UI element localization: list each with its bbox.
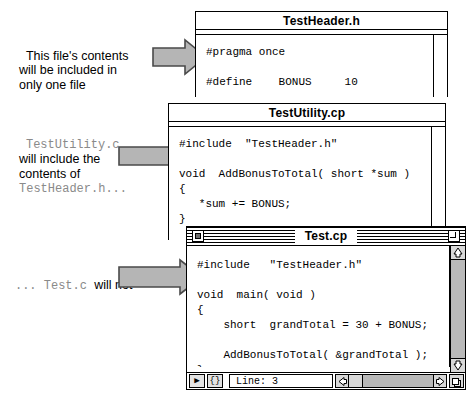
code-area-testutility[interactable]: #include "TestHeader.h" void AddBonusToT… (169, 127, 445, 240)
window-test[interactable]: Test.cp #include "TestHeader.h" void mai… (186, 226, 466, 390)
braces-balance-icon[interactable]: {} (207, 374, 223, 388)
annotation-text: This file's contents will be included in… (19, 49, 128, 92)
code-text: #include "TestHeader.h" void main( void … (187, 246, 449, 367)
scroll-up-arrow-icon[interactable] (451, 246, 465, 260)
scrollbar-vertical[interactable] (450, 246, 465, 372)
titlebar-test[interactable]: Test.cp (187, 227, 465, 246)
status-bar: ▶ {} Line: 3 (187, 372, 465, 389)
scrollbar-track-horizontal[interactable] (363, 375, 433, 387)
scroll-down-arrow-icon[interactable] (451, 358, 465, 372)
code-text: #include "TestHeader.h" void AddBonusToT… (169, 127, 445, 227)
scroll-left-arrow-icon[interactable] (336, 375, 349, 387)
window-title: Test.cp (295, 229, 358, 243)
annotation-text: will include the contents of (19, 152, 100, 181)
window-title: TestHeader.h (275, 14, 368, 28)
scrollbar-gutter-vertical[interactable] (431, 127, 445, 240)
window-testheader[interactable]: TestHeader.h #pragma once #define BONUS … (195, 11, 448, 97)
scroll-right-arrow-icon[interactable] (433, 375, 446, 387)
titlebar-testutility[interactable]: TestUtility.cp (169, 104, 445, 122)
window-testutility[interactable]: TestUtility.cp #include "TestHeader.h" v… (168, 103, 446, 240)
code-area-test[interactable]: #include "TestHeader.h" void main( void … (187, 246, 450, 367)
line-number-display[interactable]: Line: 3 (229, 374, 333, 388)
function-popup-icon[interactable]: ▶ (189, 374, 205, 388)
annotation-testheader: This file's contents will be included in… (19, 34, 154, 92)
scrollbar-thumb-horizontal[interactable] (349, 375, 363, 387)
annotation-filename-testutility: TestUtility.c (26, 138, 120, 152)
scrollbar-horizontal[interactable] (335, 374, 447, 388)
annotation-filename-testheader: TestHeader.h... (19, 182, 127, 196)
window-title: TestUtility.cp (261, 106, 353, 120)
grow-box-icon[interactable] (449, 374, 464, 388)
code-area-testheader[interactable]: #pragma once #define BONUS 10 (196, 35, 447, 97)
scrollbar-gutter-vertical[interactable] (433, 35, 447, 97)
close-box-icon[interactable] (192, 230, 204, 242)
code-text: #pragma once #define BONUS 10 (196, 35, 447, 90)
titlebar-testheader[interactable]: TestHeader.h (196, 12, 447, 30)
zoom-box-icon[interactable] (448, 230, 460, 242)
annotation-filename-test: ... Test.c (15, 279, 94, 293)
